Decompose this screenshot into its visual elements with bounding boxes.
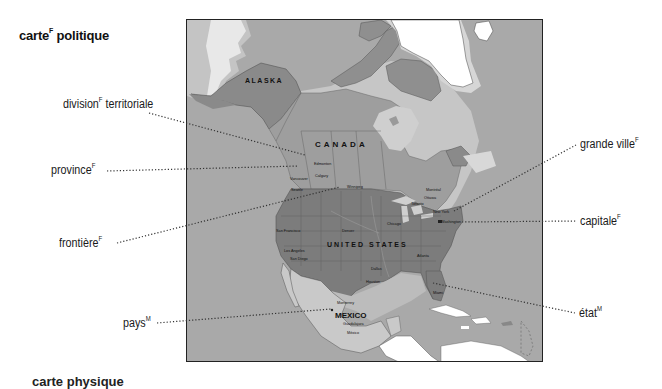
label-text: frontière [59,236,98,250]
north-america-political-map: ALASKA CANADA UNITED STATES MEXICO Edmon… [186,19,543,362]
label-frontiere: frontièreF [59,236,102,250]
city-toronto: Toronto [411,202,424,206]
label-text: province [51,163,92,177]
jamaica [461,326,469,329]
city-los-angeles: Los Angeles [284,249,305,253]
city-winnipeg: Winnipeg [347,185,363,189]
label-grande-ville: grande villeF [580,137,639,151]
city-chicago: Chicago [387,222,401,226]
gender-marker: F [49,27,53,34]
city-monterrey: Monterrey [337,301,354,305]
city-san-francisco: San Francisco [276,229,300,233]
city-marker [331,309,333,311]
title-main: carte [19,28,49,43]
city-new-york: New York [433,210,449,214]
city-guadalajara: Guadalajara [343,322,365,326]
city-calgary: Calgary [315,174,328,178]
city-washington: Washington [441,220,461,224]
cropped-next-section-title: carte physique [32,374,124,389]
region-label-united-states: UNITED STATES [327,241,408,248]
label-text: capitale [580,214,617,228]
capital-marker [438,220,442,223]
label-text: division [63,97,99,111]
city-edmonton: Edmonton [314,162,331,166]
label-division-territoriale: divisionF territoriale [63,97,153,111]
label-etat: étatM [579,306,602,320]
city-denver: Denver [342,229,355,233]
gender-marker: F [635,136,639,143]
page-title: carteF politique [19,28,109,43]
gender-marker: M [597,305,602,312]
label-text: pays [123,316,146,330]
title-rest: politique [53,28,109,43]
label-capitale: capitaleF [580,214,621,228]
map-svg: ALASKA CANADA UNITED STATES MEXICO Edmon… [187,20,543,362]
city-mexico: México [347,331,359,335]
city-houston: Houston [366,280,380,284]
label-text: grande ville [580,137,635,151]
label-text: état [579,306,597,320]
region-label-canada: CANADA [315,140,368,149]
city-vancouver: Vancouver [290,177,309,181]
city-montreal: Montréal [426,188,441,192]
gender-marker: F [617,213,621,220]
label-province: provinceF [51,163,95,177]
city-seattle: Seattle [291,188,303,192]
city-atlanta: Atlanta [417,254,430,258]
city-ottawa: Ottawa [424,196,437,200]
gender-marker: F [98,235,102,242]
gender-marker: F [99,96,103,103]
city-dallas: Dallas [371,267,382,271]
city-san-diego: San Diego [290,257,308,261]
gender-marker: F [92,162,96,169]
label-pays: paysM [123,316,151,330]
gender-marker: M [146,315,151,322]
label-suffix: territoriale [103,97,154,111]
region-label-alaska: ALASKA [245,77,283,84]
city-miami: Miami [433,291,443,295]
region-label-mexico: MEXICO [335,311,367,320]
